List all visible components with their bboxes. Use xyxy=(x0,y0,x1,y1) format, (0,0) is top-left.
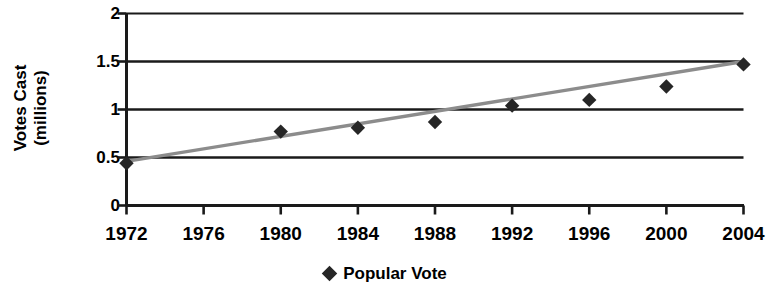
legend-diamond-icon xyxy=(322,265,338,281)
x-tick-label-2000: 2000 xyxy=(626,224,706,243)
x-tick-label-1980: 1980 xyxy=(241,224,321,243)
y-tick-label-0.5: 0.5 xyxy=(66,149,120,166)
legend-entry-label: Popular Vote xyxy=(343,265,447,282)
y-axis-title-line1: Votes Cast xyxy=(11,64,31,151)
gridlines xyxy=(127,14,744,206)
y-tick-label-1: 1 xyxy=(66,101,120,118)
x-tick-label-1972: 1972 xyxy=(87,224,167,243)
data-point-1972 xyxy=(119,156,133,170)
x-axis-tick-labels: 197219761980198419881992199620002004 xyxy=(0,216,771,250)
x-axis-tick-marks xyxy=(127,206,744,215)
data-point-markers xyxy=(119,57,750,170)
y-axis-tick-labels: 00.511.52 xyxy=(62,0,120,215)
data-point-1984 xyxy=(351,121,365,135)
x-tick-label-1996: 1996 xyxy=(549,224,629,243)
data-point-1980 xyxy=(274,124,288,138)
x-tick-label-1988: 1988 xyxy=(395,224,475,243)
x-tick-label-1984: 1984 xyxy=(318,224,398,243)
data-point-1988 xyxy=(428,115,442,129)
x-tick-label-2004: 2004 xyxy=(704,224,771,243)
chart-legend: Popular Vote xyxy=(0,258,771,288)
data-point-1996 xyxy=(582,93,596,107)
chart-container: Votes Cast (millions) 00.511.52 19721976… xyxy=(0,0,771,295)
y-axis-title-line2: (millions) xyxy=(31,64,51,151)
trendline xyxy=(127,62,744,162)
y-tick-label-0: 0 xyxy=(66,197,120,214)
data-point-2000 xyxy=(659,79,673,93)
x-tick-label-1992: 1992 xyxy=(472,224,552,243)
y-tick-label-2: 2 xyxy=(66,5,120,22)
data-point-2004 xyxy=(736,57,750,71)
x-tick-label-1976: 1976 xyxy=(164,224,244,243)
data-point-1992 xyxy=(505,98,519,112)
y-axis-title: Votes Cast (millions) xyxy=(0,0,62,215)
y-tick-label-1.5: 1.5 xyxy=(66,53,120,70)
